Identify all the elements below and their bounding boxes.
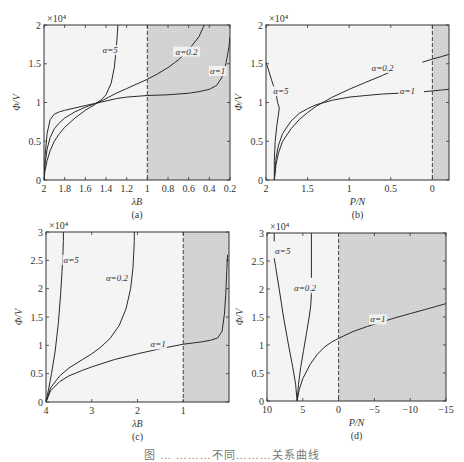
y-tick-label: 1 — [36, 97, 41, 108]
y-tick-label: 3 — [38, 227, 43, 238]
y-tick-label: 2 — [259, 284, 264, 295]
x-tick-label: 1 — [145, 183, 150, 194]
y-tick-label: 0.5 — [29, 136, 42, 147]
y-tick-label: 2 — [258, 20, 263, 31]
y-multiplier: ×10⁴ — [49, 220, 69, 231]
y-tick-label: 2.5 — [252, 256, 265, 267]
shaded-region — [183, 232, 229, 402]
y-tick-label: 1.5 — [251, 58, 264, 69]
y-tick-label: 0 — [38, 397, 43, 408]
x-tick-label: 0.4 — [203, 183, 216, 194]
x-tick-label: −15 — [438, 404, 454, 415]
x-tick-label: 4 — [44, 405, 49, 416]
x-tick-label: 0.5 — [385, 183, 398, 194]
x-tick-label: 1.2 — [120, 183, 133, 194]
x-tick-label: 5 — [300, 404, 305, 415]
y-tick-label: 0 — [259, 396, 264, 407]
series-label: α=5 — [64, 255, 80, 265]
x-axis-label: λB — [131, 196, 142, 207]
x-tick-label: 3 — [89, 405, 94, 416]
panel-a-lambda-b-plot: α=5α=0.2α=121.81.61.41.210.80.60.40.200.… — [11, 13, 236, 221]
y-tick-label: 1 — [38, 340, 43, 351]
x-tick-label: 2 — [42, 183, 47, 194]
y-multiplier: ×10⁴ — [47, 13, 67, 24]
y-tick-label: 1.5 — [31, 312, 44, 323]
y-tick-label: 3 — [259, 228, 264, 239]
panel-b-force-plot: α=5α=0.2α=121.510.5000.511.52×10⁴P/NΦ/V(… — [233, 13, 449, 221]
x-tick-label: 1 — [347, 183, 352, 194]
y-tick-label: 0.5 — [251, 136, 264, 147]
panel-c-lambda-b-plot: α=5α=0.2α=1432100.511.522.53×10⁴λBΦ/V(c) — [13, 220, 229, 443]
x-tick-label: 1.5 — [301, 183, 314, 194]
y-axis-label: Φ/V — [234, 307, 245, 325]
y-axis-label: Φ/V — [13, 307, 24, 325]
x-tick-label: 0.6 — [182, 183, 195, 194]
x-tick-label: 2 — [135, 405, 140, 416]
y-tick-label: 1 — [259, 340, 264, 351]
series-label: α=1 — [370, 314, 385, 324]
y-tick-label: 1.5 — [29, 58, 42, 69]
panel-label: (a) — [131, 209, 142, 221]
y-tick-label: 0 — [258, 175, 263, 186]
panel-label: (b) — [352, 209, 364, 221]
series-label: α=0.2 — [371, 63, 394, 73]
shaded-region — [339, 233, 446, 401]
series-label: α=0.2 — [294, 283, 317, 293]
series-label: α=5 — [102, 45, 118, 55]
figure-caption: 图 … ………不同………关系曲线 — [0, 446, 464, 462]
x-tick-label: 0 — [430, 183, 435, 194]
panel-label: (d) — [351, 430, 363, 442]
x-tick-label: −5 — [369, 404, 380, 415]
y-tick-label: 2.5 — [31, 255, 44, 266]
x-tick-label: −10 — [402, 404, 418, 415]
series-label: α=0.2 — [106, 273, 129, 283]
y-tick-label: 0 — [36, 175, 41, 186]
x-tick-label: 2 — [264, 183, 269, 194]
series-label: α=5 — [273, 86, 289, 96]
x-axis-label: P/N — [348, 417, 366, 428]
y-tick-label: 0.5 — [252, 368, 265, 379]
series-label: α=1 — [400, 86, 415, 96]
x-tick-label: 1.6 — [79, 183, 92, 194]
panel-d-force-plot: α=5α=0.2α=11050−5−10−1500.511.522.53×10⁴… — [234, 221, 454, 442]
x-tick-label: 1.8 — [58, 183, 71, 194]
x-tick-label: 1 — [181, 405, 186, 416]
series-label: α=0.2 — [176, 47, 199, 57]
y-tick-label: 0.5 — [31, 368, 44, 379]
y-axis-label: Φ/V — [233, 92, 244, 110]
plot-area — [266, 25, 449, 180]
x-axis-label: P/N — [349, 196, 367, 207]
y-tick-label: 2 — [36, 20, 41, 31]
x-tick-label: 1.4 — [100, 183, 113, 194]
panel-label: (c) — [132, 431, 143, 443]
x-tick-label: 0 — [336, 404, 341, 415]
y-tick-label: 1.5 — [252, 312, 265, 323]
x-axis-label: λB — [131, 418, 142, 429]
y-axis-label: Φ/V — [11, 92, 22, 110]
x-tick-label: 0.2 — [224, 183, 237, 194]
series-label: α=5 — [275, 246, 291, 256]
y-multiplier: ×10⁴ — [269, 13, 289, 24]
series-label: α=1 — [150, 339, 165, 349]
x-tick-label: 0.8 — [162, 183, 175, 194]
series-label: α=1 — [210, 66, 225, 76]
y-tick-label: 2 — [38, 283, 43, 294]
y-multiplier: ×10⁴ — [270, 221, 290, 232]
y-tick-label: 1 — [258, 97, 263, 108]
